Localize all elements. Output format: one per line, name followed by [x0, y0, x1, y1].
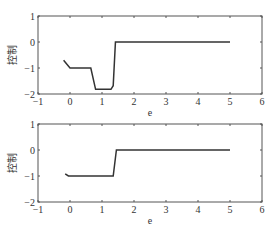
y-tick-label: −1: [24, 171, 35, 182]
y-tick-label: 1: [30, 11, 35, 22]
x-tick-label: 2: [132, 96, 137, 107]
x-tick-label: 0: [68, 204, 73, 215]
x-tick-label: 2: [132, 204, 137, 215]
y-axis-label: 控制: [6, 153, 18, 173]
y-tick-label: −2: [24, 89, 35, 100]
x-tick-label: 4: [196, 96, 201, 107]
x-tick-label: 3: [164, 204, 169, 215]
series-line: [64, 42, 230, 89]
axes-box-1: [38, 16, 262, 94]
y-tick-label: −2: [24, 197, 35, 208]
x-tick-label: 4: [196, 204, 201, 215]
x-tick-label: 0: [68, 96, 73, 107]
y-tick-label: 0: [30, 37, 35, 48]
y-tick-label: 0: [30, 145, 35, 156]
x-tick-label: 3: [164, 96, 169, 107]
y-tick-label: −1: [24, 63, 35, 74]
x-tick-label: 1: [100, 96, 105, 107]
x-tick-label: 6: [260, 96, 265, 107]
axes-box-2: [38, 124, 262, 202]
x-axis-label: e: [148, 107, 153, 118]
y-tick-label: 1: [30, 119, 35, 130]
x-tick-label: 1: [100, 204, 105, 215]
figure: −1012345610−1−2e控制−1012345610−1−2e控制: [0, 0, 276, 239]
series-line: [65, 150, 230, 176]
x-axis-label: e: [148, 215, 153, 226]
x-tick-label: 5: [228, 204, 233, 215]
x-tick-label: 6: [260, 204, 265, 215]
y-axis-label: 控制: [6, 45, 18, 65]
x-tick-label: 5: [228, 96, 233, 107]
